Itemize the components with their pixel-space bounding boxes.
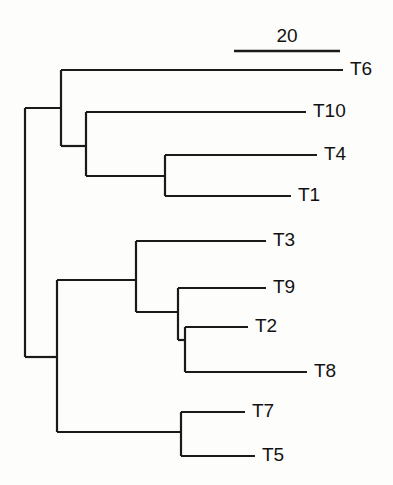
leaf-label-T9: T9 xyxy=(273,276,295,297)
leaf-label-group: T6T10T4T1T3T9T2T8T7T5 xyxy=(252,58,372,465)
leaf-label-T5: T5 xyxy=(262,444,284,465)
leaf-label-T8: T8 xyxy=(314,360,336,381)
leaf-label-T7: T7 xyxy=(252,400,274,421)
leaf-label-T10: T10 xyxy=(313,100,346,121)
leaf-branch-group xyxy=(61,70,343,456)
leaf-label-T2: T2 xyxy=(255,315,277,336)
scale-bar-label: 20 xyxy=(276,25,297,46)
internal-branch-group xyxy=(25,70,185,456)
leaf-label-T3: T3 xyxy=(273,229,295,250)
leaf-label-T1: T1 xyxy=(298,184,320,205)
leaf-label-T6: T6 xyxy=(350,58,372,79)
scale-bar: 20 xyxy=(234,25,340,51)
tree-canvas: T6T10T4T1T3T9T2T8T7T5 20 xyxy=(0,0,393,485)
leaf-label-T4: T4 xyxy=(324,143,347,164)
phylogenetic-tree-figure: T6T10T4T1T3T9T2T8T7T5 20 xyxy=(0,0,393,485)
